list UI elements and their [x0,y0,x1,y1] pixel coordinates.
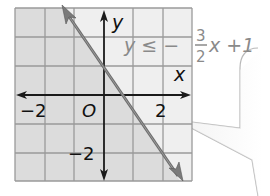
inequality-numerator: 3 [196,27,206,45]
origin-label: O [82,100,96,121]
tick-label-y-neg2: −2 [68,143,95,164]
y-axis-label: y [111,11,124,33]
inequality-denominator: 2 [196,48,206,66]
tick-label-x-2: 2 [155,100,166,121]
inequality-lhs: y ≤ − [123,34,179,56]
inequality-rhs: x +1 [208,34,254,56]
x-axis-label: x [173,63,186,85]
tick-label-x-neg2: −2 [20,100,47,121]
inequality-graph: y x −2 O 2 −2 y ≤ − 3 2 x +1 [0,0,270,196]
